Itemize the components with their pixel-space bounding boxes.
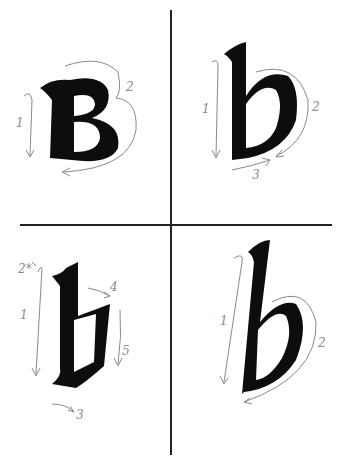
stroke-label-1: 1 [16,116,24,130]
stroke-label-4: 4 [110,280,118,294]
panel-bottom-right: 1 2 [172,226,347,461]
stroke-label-2-star: 2* [18,262,32,276]
stroke-label-3: 3 [252,168,260,182]
stroke-label-2: 2 [126,80,134,94]
panel-top-left: 1 2 [0,0,170,224]
stroke-label-5: 5 [122,344,130,358]
stroke-label-3: 3 [76,408,84,422]
stroke-label-1: 1 [220,314,228,328]
stroke-label-1: 1 [20,308,28,322]
stroke-label-1: 1 [202,102,210,116]
uncial-b-glyph [0,0,170,224]
foundational-b-glyph [172,0,347,224]
stroke-label-2: 2 [312,100,320,114]
panel-bottom-left: 2* 1 4 5 3 [0,226,170,461]
stroke-label-2: 2 [318,336,326,350]
panel-top-right: 1 2 3 [172,0,347,224]
